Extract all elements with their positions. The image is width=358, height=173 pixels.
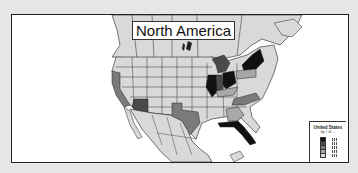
- state-indiana[interactable]: [216, 75, 223, 91]
- map-panel: North America United States by # of ...: [11, 14, 349, 163]
- legend-subtitle: by # of ...: [310, 130, 346, 135]
- map-title: North America: [132, 21, 235, 40]
- legend-value: [332, 138, 337, 141]
- map-legend: United States by # of ...: [309, 121, 346, 163]
- legend-value: [332, 154, 337, 157]
- legend-rows: [310, 137, 346, 157]
- legend-swatch: [320, 153, 326, 158]
- legend-value: [332, 146, 337, 149]
- legend-value: [332, 150, 337, 153]
- region-cuba: [230, 151, 244, 162]
- state-pennsylvania[interactable]: [236, 69, 256, 79]
- legend-value: [332, 142, 337, 145]
- legend-row: [310, 153, 346, 157]
